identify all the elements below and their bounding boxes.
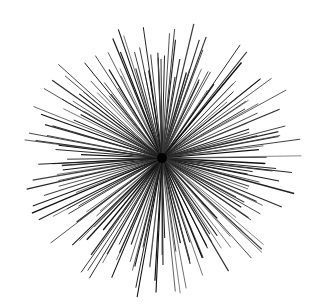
starburst-canvas bbox=[0, 0, 320, 308]
starburst-center bbox=[157, 153, 167, 163]
ray bbox=[162, 157, 267, 158]
